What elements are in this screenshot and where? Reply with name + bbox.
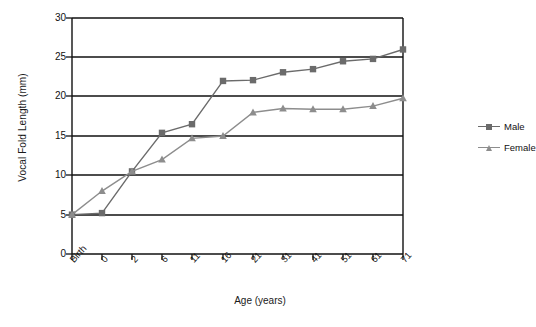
legend-female-marker-icon [478,143,500,153]
data-point-male-0[interactable] [99,210,105,216]
data-point-male-31[interactable] [280,69,286,75]
data-point-male-71[interactable] [400,46,406,52]
data-point-male-61[interactable] [370,56,376,62]
series-line-female [72,98,403,214]
y-axis-ticks [66,18,72,254]
legend: Male Female [478,116,526,158]
data-point-female-6[interactable] [158,156,166,163]
data-point-male-11[interactable] [189,121,195,127]
data-series-layer [68,46,407,218]
legend-label-male: Male [504,121,525,132]
legend-item-male[interactable]: Male [478,116,526,137]
data-point-male-6[interactable] [159,130,165,136]
legend-item-female[interactable]: Female [478,137,526,158]
legend-label-female: Female [504,142,536,153]
legend-male-marker-icon [478,122,500,132]
data-point-male-51[interactable] [340,58,346,64]
data-point-male-16[interactable] [220,78,226,84]
x-axis-title: Age (years) [170,295,350,306]
data-point-female-0[interactable] [98,187,106,194]
series-line-male [72,49,403,214]
series-female [68,94,407,217]
x-axis-tick-labels: Birth 0 2 6 11 16 21 31 41 51 61 71 [0,258,527,298]
series-male [69,46,406,218]
data-point-male-21[interactable] [250,77,256,83]
data-point-male-41[interactable] [310,66,316,72]
data-point-female-71[interactable] [399,94,407,101]
